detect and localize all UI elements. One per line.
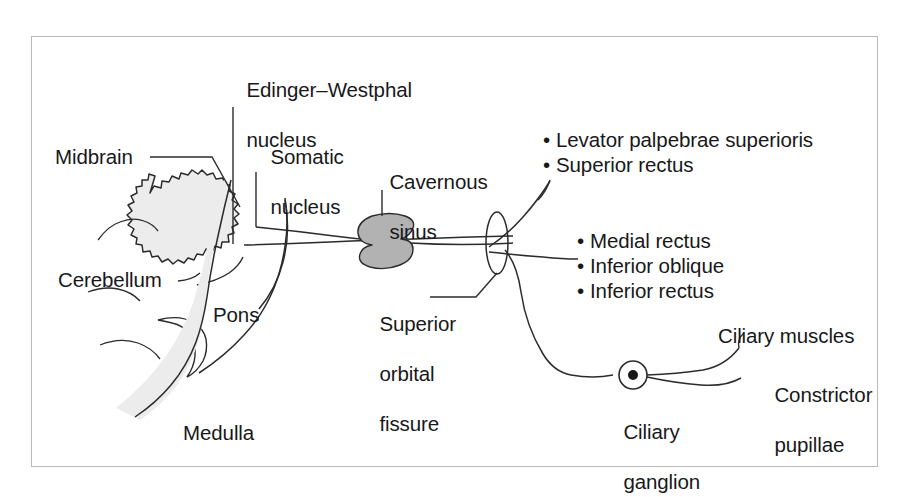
- list-item: •Medial rectus: [577, 228, 724, 253]
- ciliary-ganglion-dot: [628, 370, 638, 380]
- label-constrictor-line2: pupillae: [774, 433, 844, 456]
- label-sof-line1: Superior: [379, 312, 456, 335]
- label-cavernous-sinus-line1: Cavernous: [389, 170, 487, 193]
- list-item: •Inferior oblique: [577, 253, 724, 278]
- target-inferior-1: Inferior oblique: [590, 254, 724, 277]
- label-cavernous-sinus: Cavernous sinus: [367, 144, 488, 269]
- leader-cerebellum: [178, 273, 200, 281]
- target-superior-1: Superior rectus: [556, 153, 694, 176]
- label-medulla: Medulla: [183, 420, 254, 445]
- constrictor-pupillae-branch: [647, 377, 741, 385]
- label-ciliary-ganglion: Ciliary ganglion: [601, 394, 700, 497]
- target-list-inferior: •Medial rectus •Inferior oblique •Inferi…: [577, 228, 724, 303]
- label-edinger-westphal-line1: Edinger–Westphal: [246, 78, 412, 101]
- bullet-icon: •: [543, 127, 556, 152]
- label-constrictor-line1: Constrictor: [774, 383, 872, 406]
- target-inferior-2: Inferior rectus: [590, 279, 714, 302]
- label-ciliary-ganglion-line1: Ciliary: [623, 420, 679, 443]
- label-constrictor-pupillae: Constrictor pupillae: [752, 357, 872, 482]
- bullet-icon: •: [577, 253, 590, 278]
- label-superior-orbital-fissure: Superior orbital fissure: [357, 286, 456, 461]
- label-cavernous-sinus-line2: sinus: [389, 220, 436, 243]
- label-somatic-nucleus-line2: nucleus: [270, 195, 340, 218]
- bullet-icon: •: [577, 278, 590, 303]
- list-item: •Superior rectus: [543, 152, 813, 177]
- target-superior-0: Levator palpebrae superioris: [556, 128, 813, 151]
- label-sof-line2: orbital: [379, 362, 434, 385]
- target-list-superior: •Levator palpebrae superioris •Superior …: [543, 127, 813, 177]
- label-ciliary-muscles: Ciliary muscles: [718, 323, 854, 348]
- list-item: •Inferior rectus: [577, 278, 724, 303]
- label-cerebellum: Cerebellum: [58, 267, 162, 292]
- label-sof-line3: fissure: [379, 412, 439, 435]
- inferior-division-branch: [489, 252, 578, 259]
- ciliary-muscles-branch: [647, 348, 739, 375]
- label-midbrain: Midbrain: [55, 144, 133, 169]
- label-pons: Pons: [213, 302, 259, 327]
- label-somatic-nucleus-line1: Somatic: [270, 145, 343, 168]
- superior-division-branch: [489, 181, 550, 247]
- list-item: •Levator palpebrae superioris: [543, 127, 813, 152]
- label-somatic-nucleus: Somatic nucleus: [248, 119, 344, 244]
- bullet-icon: •: [543, 152, 556, 177]
- target-inferior-0: Medial rectus: [590, 229, 711, 252]
- cerebellum-folia-lower: [100, 340, 160, 359]
- label-ciliary-ganglion-line2: ganglion: [623, 470, 700, 493]
- bullet-icon: •: [577, 228, 590, 253]
